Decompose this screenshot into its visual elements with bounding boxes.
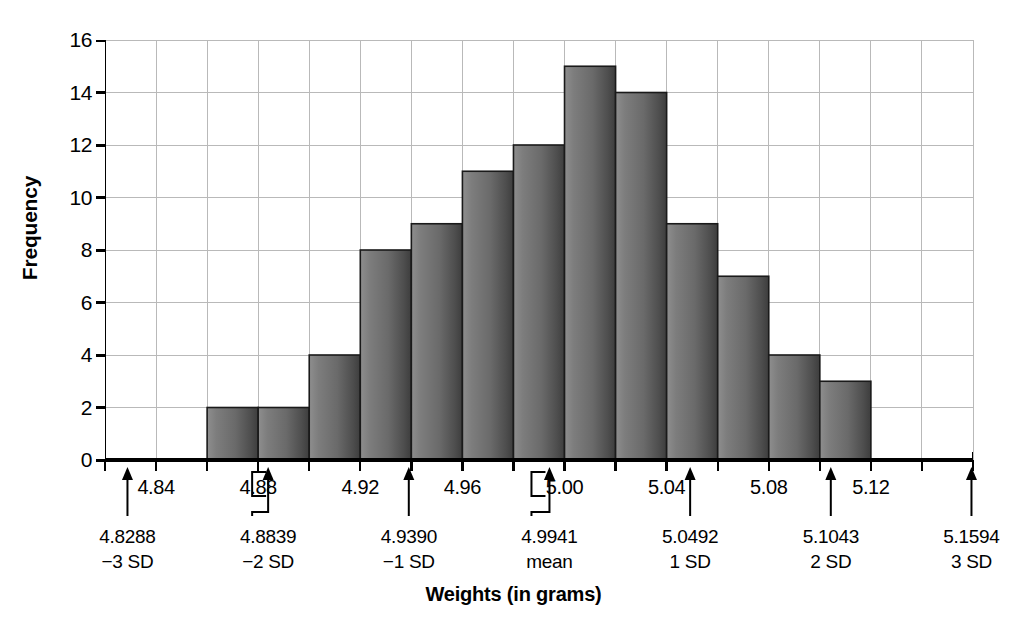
sd-annotation: 4.9390−1 SD [381, 524, 437, 574]
y-axis-tick-label: 4 [46, 344, 92, 365]
sd-annotation: 5.15943 SD [943, 524, 999, 574]
sd-annotation: 5.10432 SD [803, 524, 859, 574]
y-axis-tick-label: 12 [46, 134, 92, 155]
sd-name-label: 3 SD [943, 549, 999, 574]
sd-name-label: −3 SD [99, 549, 155, 574]
y-axis-tick-labels: 0246810121416 [36, 0, 92, 627]
x-axis-tick-label: 4.84 [137, 477, 174, 497]
x-axis-title: Weights (in grams) [0, 583, 1027, 606]
bars [207, 66, 871, 460]
histogram-bar [718, 276, 769, 460]
histogram-bar [513, 145, 564, 460]
sd-value-label: 5.1594 [943, 524, 999, 549]
x-axis-tick-label: 4.88 [240, 477, 277, 497]
histogram-bar [309, 355, 360, 460]
sd-annotation: 5.04921 SD [662, 524, 718, 574]
y-axis-tick-label: 6 [46, 292, 92, 313]
histogram-bar [207, 408, 258, 461]
plot-svg [91, 40, 979, 476]
sd-value-label: 4.8288 [99, 524, 155, 549]
x-axis-tick-label: 5.12 [852, 477, 889, 497]
histogram-bar [616, 93, 667, 461]
histogram-bar [565, 66, 616, 460]
sd-annotation: 4.9941mean [521, 524, 577, 574]
x-axis-tick-label: 5.00 [546, 477, 583, 497]
x-axis-tick-label: 5.08 [750, 477, 787, 497]
sd-annotation: 4.8288−3 SD [99, 524, 155, 574]
sd-name-label: −1 SD [381, 549, 437, 574]
x-axis-tick-label: 4.96 [444, 477, 481, 497]
x-axis-tick-label: 4.92 [342, 477, 379, 497]
sd-annotation: 4.8839−2 SD [240, 524, 296, 574]
histogram-bar [769, 355, 820, 460]
histogram-bar [820, 381, 871, 460]
plot-area [91, 40, 959, 460]
x-axis-tick-label: 5.04 [648, 477, 685, 497]
sd-name-label: −2 SD [240, 549, 296, 574]
sd-name-label: mean [521, 549, 577, 574]
sd-value-label: 5.1043 [803, 524, 859, 549]
y-axis-tick-label: 10 [46, 187, 92, 208]
sd-name-label: 2 SD [803, 549, 859, 574]
y-axis-tick-label: 14 [46, 82, 92, 103]
y-axis-tick-label: 2 [46, 397, 92, 418]
histogram-bar [258, 408, 309, 461]
histogram-bar [360, 250, 411, 460]
sd-value-label: 4.9390 [381, 524, 437, 549]
sd-value-label: 4.8839 [240, 524, 296, 549]
sd-value-label: 4.9941 [521, 524, 577, 549]
histogram-figure: Frequency 0246810121416 4.844.884.924.96… [0, 0, 1027, 627]
histogram-bar [667, 224, 718, 460]
sd-name-label: 1 SD [662, 549, 718, 574]
histogram-bar [462, 171, 513, 460]
y-axis-tick-label: 8 [46, 239, 92, 260]
y-axis-tick-label: 0 [46, 449, 92, 470]
y-axis-tick-label: 16 [46, 29, 92, 50]
histogram-bar [411, 224, 462, 460]
sd-value-label: 5.0492 [662, 524, 718, 549]
